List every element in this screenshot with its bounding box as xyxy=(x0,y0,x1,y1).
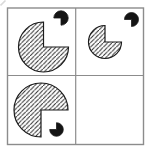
cell-top-left xyxy=(19,11,69,72)
puzzle-figure xyxy=(0,0,150,149)
black-dot-notched xyxy=(54,11,68,25)
cell-bottom-left xyxy=(14,83,68,137)
cell-top-right xyxy=(89,13,139,59)
hatched-pacman-small xyxy=(89,26,122,59)
black-dot-notched xyxy=(125,13,139,27)
matrix-grid-svg xyxy=(0,0,150,149)
hatched-pacman-large xyxy=(19,22,69,72)
black-dot-notched xyxy=(50,123,64,137)
corner-smudge xyxy=(1,1,6,6)
